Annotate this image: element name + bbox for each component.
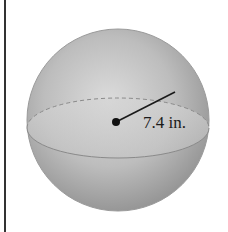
center-point (112, 118, 120, 126)
sphere-diagram: 7.4 in. (0, 0, 228, 232)
radius-label: 7.4 in. (143, 113, 186, 132)
